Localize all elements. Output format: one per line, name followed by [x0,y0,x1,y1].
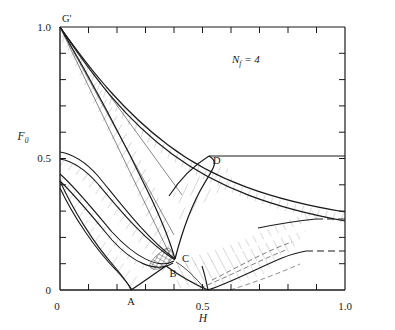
ytick-label-0.5: 0.5 [37,152,51,164]
label-A: A [127,296,135,307]
xtick-label-1.0: 1.0 [338,300,352,312]
label-B: B [169,268,176,279]
label-G-prime: G' [62,13,72,24]
y-axis-title: F0 [17,130,29,145]
ytick-label-0: 0 [46,284,52,296]
xtick-label-0.5: 0.5 [196,300,210,312]
label-C: C [182,253,189,264]
x-axis-title: H [198,312,208,324]
ytick-label-1.0: 1.0 [37,21,51,33]
chart-figure: 1.0 0.5 0 0 0.5 1.0 F0 H G' A B C D Nf =… [0,0,395,330]
xtick-label-0: 0 [54,300,60,312]
figure-page: 1.0 0.5 0 0 0.5 1.0 F0 H G' A B C D Nf =… [0,0,395,330]
label-D: D [213,155,221,166]
